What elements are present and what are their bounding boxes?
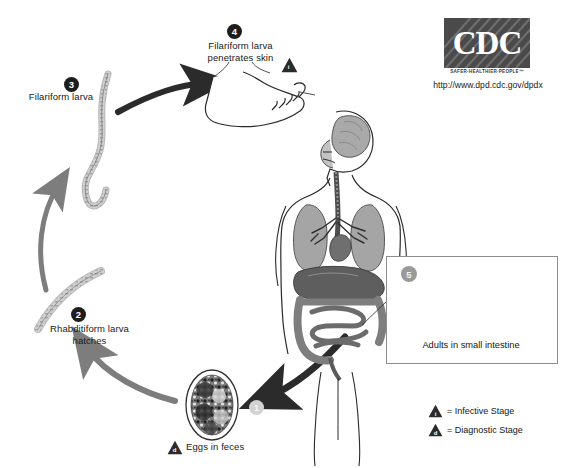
diagnostic-stage-icon: d — [428, 423, 443, 437]
infective-marker-glyph: i — [281, 57, 296, 71]
step-3-badge: 3 — [64, 77, 79, 92]
cdc-wordmark: CDC — [444, 18, 530, 68]
step-4-badge: 4 — [227, 24, 242, 39]
arrow-filariform-to-skin — [118, 83, 205, 112]
diagnostic-stage-marker-eggs: d — [167, 440, 183, 455]
legend: i = Infective Stage d = Diagnostic Stage — [428, 404, 560, 442]
cdc-logo: CDC — [444, 18, 530, 68]
diagnostic-icon-glyph: d — [428, 423, 443, 437]
infective-icon-glyph: i — [428, 404, 443, 418]
step-2-label-line1: Rhabditiform larva — [17, 324, 162, 335]
infective-stage-icon: i — [428, 404, 443, 418]
step-1-label: Eggs in feces — [186, 442, 286, 453]
cdc-url[interactable]: http://www.dpd.cdc.gov/dpdx — [420, 80, 556, 90]
legend-row-diagnostic: d = Diagnostic Stage — [428, 423, 560, 437]
inset-caption: Adults in small intestine — [386, 340, 556, 350]
cdc-tagline: SAFER·HEALTHIER·PEOPLE™ — [444, 69, 530, 74]
legend-label-infective: = Infective Stage — [447, 406, 514, 416]
legend-label-diagnostic: = Diagnostic Stage — [447, 425, 523, 435]
infective-stage-marker-skin: i — [281, 57, 298, 73]
legend-row-infective: i = Infective Stage — [428, 404, 560, 418]
arrow-larva-to-filariform — [41, 186, 58, 290]
arrow-eggs-to-larva — [87, 348, 175, 401]
step-5-badge: 5 — [401, 266, 417, 282]
step-3-label: Filariform larva — [6, 92, 116, 103]
step-2-label-line2: hatches — [17, 336, 162, 347]
foot-illustration — [205, 72, 305, 127]
rhabditiform-larva-illustration — [38, 271, 101, 329]
egg-illustration — [186, 370, 238, 440]
step-4-label-line1: Filariform larva — [178, 41, 303, 52]
life-cycle-diagram: 3 Filariform larva 4 Filariform larva pe… — [0, 0, 567, 468]
step-2-badge: 2 — [71, 307, 86, 322]
diagnostic-marker-glyph: d — [167, 440, 182, 454]
step-1-badge: 1 — [249, 400, 264, 415]
